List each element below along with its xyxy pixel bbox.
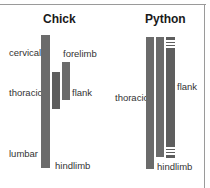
- frame-right-line: [204, 4, 205, 188]
- chick-label-thoracic: thoracic: [9, 87, 42, 98]
- python-stripe-top-3: [166, 46, 175, 48]
- python-stripe-top-1: [166, 40, 175, 42]
- chick-label-forelimb: forelimb: [63, 48, 97, 59]
- python-axial-bar-2: [156, 37, 164, 157]
- frame-top-line: [0, 4, 206, 5]
- python-label-flank: flank: [177, 81, 197, 92]
- chick-label-cervical: cervical: [9, 47, 41, 58]
- python-stripe-bottom-3: [166, 153, 175, 155]
- python-stripe-bottom-1: [166, 147, 175, 149]
- chick-title: Chick: [43, 12, 76, 26]
- python-axial-bar-1: [146, 37, 154, 169]
- python-label-thoracic: thoracic: [115, 92, 148, 103]
- python-flank-bar: [166, 37, 175, 158]
- chick-axial-bar: [41, 35, 50, 168]
- chick-thoracic-bar: [52, 72, 60, 109]
- python-label-hindlimb: hindlimb: [157, 161, 192, 172]
- chick-forelimb-flank-bar: [62, 62, 70, 100]
- chick-label-flank: flank: [72, 87, 92, 98]
- chick-label-hindlimb: hindlimb: [55, 160, 90, 171]
- python-stripe-top-2: [166, 43, 175, 45]
- chick-label-lumbar: lumbar: [9, 148, 38, 159]
- python-title: Python: [145, 12, 186, 26]
- python-stripe-bottom-2: [166, 150, 175, 152]
